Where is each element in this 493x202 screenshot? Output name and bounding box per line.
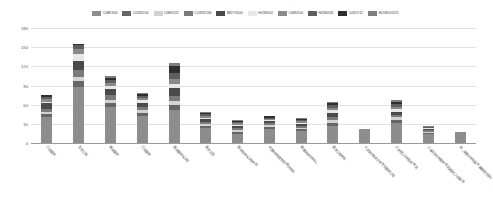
- legend-label: H01M4/36: [318, 11, 333, 16]
- bar-slot: [31, 28, 63, 143]
- x-axis-category-label: 口腔医学: [140, 146, 151, 157]
- stacked-bar[interactable]: [41, 95, 52, 143]
- legend-item[interactable]: C0BK3/04: [278, 11, 303, 16]
- chart-legend: C0BK3/04C01831/04C0BK3/22C01832/184B82Y3…: [0, 11, 491, 16]
- y-axis-tick-label: 180: [21, 26, 28, 31]
- bar-segment[interactable]: [169, 110, 180, 143]
- stacked-bar[interactable]: [359, 129, 370, 143]
- legend-item[interactable]: C01831/04: [122, 11, 148, 16]
- legend-swatch-icon: [216, 11, 225, 16]
- stacked-bar[interactable]: [169, 63, 180, 143]
- legend-label: C0BK3/04: [288, 11, 303, 16]
- x-axis-category-label: 医学工程学院: [331, 146, 346, 161]
- x-label-slot: 口腔医学: [31, 145, 63, 202]
- bar-segment[interactable]: [41, 117, 52, 143]
- bar-segment[interactable]: [137, 116, 148, 143]
- legend-item[interactable]: H01M4/36: [308, 11, 333, 16]
- y-axis-tick-label: 0: [26, 141, 28, 146]
- legend-label: H01M4/62: [258, 11, 273, 16]
- bar-segment[interactable]: [455, 132, 466, 144]
- x-label-slot: 生物工程: [63, 145, 95, 202]
- legend-swatch-icon: [338, 11, 347, 16]
- x-label-slot: 中国科学院生物物理研究所: [253, 145, 285, 202]
- x-label-slot: 医学工程学院: [317, 145, 349, 202]
- x-axis-category-label: 医药卫生: [203, 146, 214, 157]
- bar-segment[interactable]: [169, 88, 180, 96]
- bar-slot: [412, 28, 444, 143]
- legend-label: C0BK3/04: [103, 11, 118, 16]
- bar-segment[interactable]: [423, 134, 434, 143]
- x-axis-labels: 口腔医学生物工程临床医学口腔医学基础医学与工程医药卫生医学技术与工程学院中国科学…: [31, 145, 476, 202]
- legend-swatch-icon: [184, 11, 193, 16]
- legend-label: C0BK3/22: [164, 11, 179, 16]
- bar-segment[interactable]: [169, 66, 180, 74]
- bar-slot: [253, 28, 285, 143]
- stacked-bar[interactable]: [200, 112, 211, 143]
- stacked-bar[interactable]: [455, 132, 466, 144]
- stacked-bar[interactable]: [105, 76, 116, 143]
- x-label-slot: 上海交通大学医学院附属第九人民医院: [412, 145, 444, 202]
- x-label-slot: 口腔医学: [126, 145, 158, 202]
- stacked-bar[interactable]: [137, 93, 148, 143]
- bar-segment[interactable]: [200, 128, 211, 143]
- bar-slot: [381, 28, 413, 143]
- legend-swatch-icon: [368, 11, 377, 16]
- legend-item[interactable]: C01832/184: [184, 11, 212, 16]
- bar-slot: [63, 28, 95, 143]
- legend-swatch-icon: [122, 11, 131, 16]
- legend-item[interactable]: H01M4/62: [248, 11, 273, 16]
- x-label-slot: 第二军医大学附属长海医院口腔科: [444, 145, 476, 202]
- bar-slot: [126, 28, 158, 143]
- stacked-bar[interactable]: [327, 102, 338, 143]
- bar-segment[interactable]: [264, 129, 275, 143]
- legend-item[interactable]: C09D7/12: [338, 11, 363, 16]
- bar-segment[interactable]: [73, 61, 84, 71]
- bar-slot: [95, 28, 127, 143]
- bar-segment[interactable]: [296, 131, 307, 143]
- y-axis-tick-label: 150: [21, 45, 28, 50]
- bar-slot: [158, 28, 190, 143]
- legend-item[interactable]: C0BK3/22: [154, 11, 179, 16]
- y-axis-tick-label: 90: [23, 83, 28, 88]
- x-label-slot: 医药卫生: [190, 145, 222, 202]
- stacked-bar[interactable]: [232, 120, 243, 143]
- x-axis-category-label: 生物工程: [76, 146, 87, 157]
- legend-item[interactable]: C0BK3/04: [92, 11, 117, 16]
- x-axis-category-label: 第二军医大学附属长海医院口腔科: [458, 146, 492, 180]
- bar-group: [31, 28, 476, 143]
- bar-segment[interactable]: [105, 107, 116, 143]
- legend-label: C01831/04: [133, 11, 149, 16]
- stacked-bar[interactable]: [391, 100, 402, 143]
- bar-segment[interactable]: [232, 134, 243, 143]
- bar-segment[interactable]: [359, 129, 370, 143]
- y-axis-tick-label: 60: [23, 102, 28, 107]
- y-axis-tick-label: 120: [21, 64, 28, 69]
- bar-slot: [285, 28, 317, 143]
- x-label-slot: 北京航空航天大学生物医学工程: [349, 145, 381, 202]
- legend-label: H01M10/0525: [379, 11, 399, 16]
- legend-swatch-icon: [154, 11, 163, 16]
- stacked-bar[interactable]: [423, 126, 434, 143]
- legend-item[interactable]: H01M10/0525: [368, 11, 399, 16]
- legend-label: C09D7/12: [349, 11, 363, 16]
- legend-swatch-icon: [278, 11, 287, 16]
- bar-slot: [190, 28, 222, 143]
- x-axis-category-label: 临床医学: [108, 146, 119, 157]
- legend-item[interactable]: B82Y30/00: [216, 11, 242, 16]
- plot-area: 1801501209060300: [31, 28, 476, 143]
- stacked-bar[interactable]: [296, 118, 307, 143]
- x-label-slot: 基础医学与工程: [158, 145, 190, 202]
- y-axis-tick-label: 30: [23, 121, 28, 126]
- bar-slot: [222, 28, 254, 143]
- legend-label: B82Y30/00: [227, 11, 243, 16]
- bar-segment[interactable]: [73, 87, 84, 143]
- bar-slot: [317, 28, 349, 143]
- bar-segment[interactable]: [327, 126, 338, 143]
- x-label-slot: 医学技术与工程学院: [222, 145, 254, 202]
- bar-segment[interactable]: [391, 123, 402, 143]
- stacked-bar[interactable]: [264, 116, 275, 143]
- x-label-slot: 国家纳米科学中心: [285, 145, 317, 202]
- stacked-bar[interactable]: [73, 44, 84, 143]
- bar-slot: [444, 28, 476, 143]
